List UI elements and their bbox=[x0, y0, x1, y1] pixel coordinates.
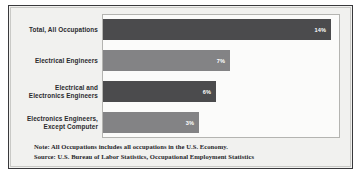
bar-label-line1: Electronics Engineers, bbox=[27, 115, 98, 122]
footnote-source: Source: U.S. Bureau of Labor Statistics,… bbox=[34, 152, 334, 162]
bar-label-line1: Electrical and bbox=[55, 84, 98, 91]
bar-value-electrical-and-electronics-engineers: 6% bbox=[203, 89, 211, 95]
chart-card: Total, All Occupations 14% Electrical En… bbox=[8, 5, 353, 169]
bar-value-electronics-engineers-except-computer: 3% bbox=[186, 120, 194, 126]
bar-value-electrical-engineers: 7% bbox=[217, 58, 225, 64]
bar-label-line1: Total, All Occupations bbox=[29, 26, 98, 33]
bar-label-line1: Electrical Engineers bbox=[35, 57, 98, 64]
bar-container-electrical-and-electronics-engineers: 6% bbox=[103, 81, 331, 102]
chart-footnotes: Note: All Occupations includes all occup… bbox=[34, 142, 334, 161]
chart-plot-region: Total, All Occupations 14% Electrical En… bbox=[9, 6, 354, 138]
bar-label-electronics-engineers-except-computer: Electronics Engineers, Except Computer bbox=[15, 115, 98, 131]
bar-row-electrical-and-electronics-engineers[interactable]: Electrical and Electronics Engineers 6% bbox=[9, 76, 354, 107]
bar-row-total-all-occupations[interactable]: Total, All Occupations 14% bbox=[9, 14, 354, 45]
bar-label-line2: Electronics Engineers bbox=[29, 92, 98, 99]
bar-rows: Total, All Occupations 14% Electrical En… bbox=[9, 14, 354, 138]
bar-label-total-all-occupations: Total, All Occupations bbox=[15, 26, 98, 34]
bar-row-electronics-engineers-except-computer[interactable]: Electronics Engineers, Except Computer 3… bbox=[9, 107, 354, 138]
bar-label-electrical-and-electronics-engineers: Electrical and Electronics Engineers bbox=[15, 84, 98, 100]
bar-row-electrical-engineers[interactable]: Electrical Engineers 7% bbox=[9, 45, 354, 76]
bar-container-total-all-occupations: 14% bbox=[103, 19, 331, 40]
footnote-note: Note: All Occupations includes all occup… bbox=[34, 142, 334, 152]
bar-electrical-engineers[interactable]: 7% bbox=[103, 50, 230, 71]
bar-label-line2: Except Computer bbox=[44, 123, 98, 130]
bar-total-all-occupations[interactable]: 14% bbox=[103, 19, 331, 40]
bar-container-electronics-engineers-except-computer: 3% bbox=[103, 112, 331, 133]
bar-electronics-engineers-except-computer[interactable]: 3% bbox=[103, 112, 199, 133]
bar-container-electrical-engineers: 7% bbox=[103, 50, 331, 71]
chart-screenshot: Total, All Occupations 14% Electrical En… bbox=[0, 0, 361, 178]
bar-value-total-all-occupations: 14% bbox=[315, 27, 327, 33]
bar-label-electrical-engineers: Electrical Engineers bbox=[15, 57, 98, 65]
bar-electrical-and-electronics-engineers[interactable]: 6% bbox=[103, 81, 216, 102]
